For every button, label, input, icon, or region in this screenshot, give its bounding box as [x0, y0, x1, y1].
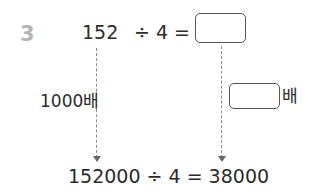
top-operator: ÷ 4 = [134, 22, 190, 42]
right-multiplier-suffix: 배 [282, 87, 298, 105]
right-multiplier-box[interactable] [229, 83, 280, 109]
left-arrow-down-icon [93, 156, 101, 162]
top-answer-box[interactable] [195, 13, 246, 43]
bottom-equation: 152000 ÷ 4 = 38000 [68, 166, 269, 186]
right-arrow-down-icon [218, 156, 226, 162]
problem-number: 3 [20, 22, 35, 46]
left-multiplier-label: 1000배 [40, 92, 99, 110]
right-dashed-line [221, 46, 222, 158]
top-dividend: 152 [82, 22, 118, 42]
